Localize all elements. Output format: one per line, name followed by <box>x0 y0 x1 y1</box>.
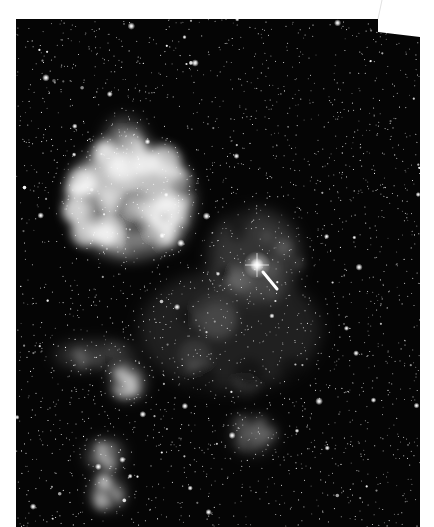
torn-edge-line <box>378 0 382 19</box>
astronomical-photo <box>0 0 434 527</box>
